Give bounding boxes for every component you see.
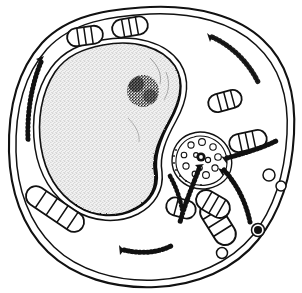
vesicle-right-lower <box>276 181 286 191</box>
vesicle-bottom <box>217 248 228 259</box>
vesicle-right-upper <box>263 169 275 181</box>
lysosome-right <box>252 224 265 237</box>
mitochondrion-right-upper <box>206 88 244 114</box>
centriole-core <box>196 152 205 161</box>
cell-diagram: Animal cell ultrastructure line drawing <box>0 0 302 293</box>
mitochondrion-top-left <box>66 25 104 48</box>
nucleus <box>34 38 187 220</box>
er-strand-bottom <box>119 245 171 255</box>
nucleolus <box>127 75 159 107</box>
mitochondrion-top-right <box>111 15 150 39</box>
golgi-centriole-complex <box>172 132 232 189</box>
